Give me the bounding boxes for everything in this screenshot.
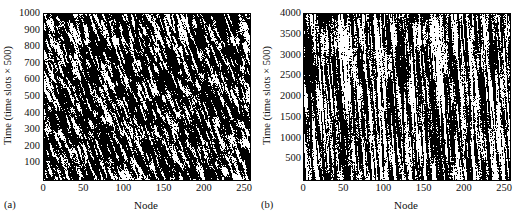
y-tick-label: 200 <box>24 141 40 152</box>
y-tick-label: 1000 <box>280 132 301 143</box>
panel-b-y-axis-title: Time (time slots × 500) <box>258 10 274 180</box>
panel-b-y-tick-labels: 5001000150020002500300035004000 <box>273 0 301 221</box>
y-tick-label: 100 <box>24 157 40 168</box>
panel-b-x-axis-title: Node <box>303 199 509 211</box>
x-tick-label: 50 <box>78 183 89 194</box>
x-tick-label: 150 <box>416 183 432 194</box>
x-tick-label: 250 <box>496 183 512 194</box>
panel-b: Time (time slots × 500) 5001000150020002… <box>259 0 518 221</box>
x-tick-label: 100 <box>116 183 132 194</box>
figure-two-panel-rasters: Time (time slots × 500) 1002003004005006… <box>0 0 519 221</box>
y-tick-label: 900 <box>24 24 40 35</box>
panel-a-raster-canvas <box>44 14 250 180</box>
panel-a-plot-area <box>43 13 251 181</box>
panel-a: Time (time slots × 500) 1002003004005006… <box>0 0 259 221</box>
y-tick-label: 600 <box>24 74 40 85</box>
panel-b-caption: (b) <box>261 199 273 210</box>
y-tick-label: 3500 <box>280 29 301 40</box>
y-tick-label: 3000 <box>280 49 301 60</box>
x-tick-label: 200 <box>456 183 472 194</box>
panel-a-x-tick-labels: 050100150200250 <box>43 183 249 197</box>
y-tick-label: 700 <box>24 58 40 69</box>
y-tick-label: 500 <box>24 91 40 102</box>
panel-a-x-axis-title: Node <box>43 199 249 211</box>
x-tick-label: 100 <box>376 183 392 194</box>
y-tick-label: 2500 <box>280 70 301 81</box>
y-tick-label: 800 <box>24 41 40 52</box>
y-tick-label: 1500 <box>280 112 301 123</box>
x-tick-label: 250 <box>236 183 252 194</box>
y-tick-label: 500 <box>285 153 301 164</box>
x-tick-label: 50 <box>338 183 349 194</box>
panel-b-plot-area <box>303 13 511 181</box>
y-tick-label: 4000 <box>280 8 301 19</box>
y-tick-label: 400 <box>24 107 40 118</box>
y-tick-label: 300 <box>24 124 40 135</box>
x-tick-label: 0 <box>300 183 305 194</box>
x-tick-label: 0 <box>40 183 45 194</box>
x-tick-label: 200 <box>196 183 212 194</box>
panel-a-y-tick-labels: 1002003004005006007008009001000 <box>12 0 40 221</box>
panel-a-caption: (a) <box>4 199 16 210</box>
panel-b-x-tick-labels: 050100150200250 <box>303 183 509 197</box>
x-tick-label: 150 <box>156 183 172 194</box>
y-tick-label: 1000 <box>19 8 40 19</box>
y-tick-label: 2000 <box>280 91 301 102</box>
panel-b-raster-canvas <box>304 14 510 180</box>
